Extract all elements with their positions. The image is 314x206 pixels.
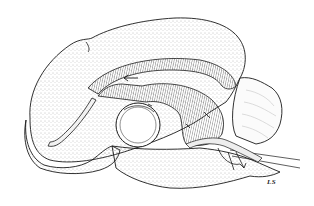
thalamus bbox=[116, 103, 160, 147]
brainstem bbox=[112, 146, 280, 188]
brain-sagittal-illustration bbox=[0, 0, 314, 206]
artist-signature: LS bbox=[267, 178, 276, 186]
cerebellum bbox=[233, 78, 282, 144]
